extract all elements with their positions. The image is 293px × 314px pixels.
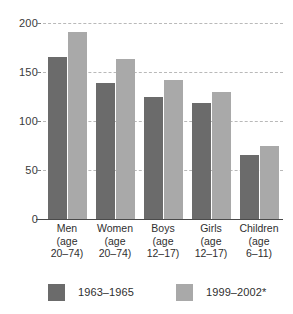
chart-legend: 1963–19651999–2002* [0, 283, 293, 305]
bar-boys-0 [144, 97, 163, 220]
category-label-children: Children (age 6–11) [235, 222, 283, 260]
legend-swatch-icon-0 [48, 284, 65, 301]
bar-women-0 [96, 83, 115, 219]
y-tick-mark [36, 72, 41, 73]
y-tick-200: 200 [0, 18, 38, 29]
category-label-boys: Boys (age 12–17) [139, 222, 187, 260]
y-tick-label: 150 [6, 67, 38, 78]
bar-children-0 [240, 155, 259, 219]
bar-girls-0 [192, 103, 211, 219]
x-axis-category-labels: Men (age 20–74)Women (age 20–74)Boys (ag… [43, 222, 283, 274]
legend-item-0[interactable]: 1963–1965 [48, 283, 134, 301]
x-axis-line [36, 219, 283, 220]
y-tick-150: 150 [0, 67, 38, 78]
bar-chart: 050100150200 Men (age 20–74)Women (age 2… [0, 0, 293, 314]
bar-boys-1 [164, 80, 183, 219]
y-tick-50: 50 [0, 165, 38, 176]
legend-item-1[interactable]: 1999–2002* [176, 283, 266, 301]
y-tick-mark [36, 121, 41, 122]
y-tick-label: 100 [6, 116, 38, 127]
y-tick-100: 100 [0, 116, 38, 127]
y-tick-label: 200 [6, 18, 38, 29]
y-tick-0: 0 [0, 214, 38, 225]
y-tick-mark [36, 23, 41, 24]
legend-label: 1999–2002* [206, 287, 266, 298]
bar-men-1 [68, 32, 87, 219]
legend-label: 1963–1965 [78, 287, 134, 298]
y-tick-mark [36, 170, 41, 171]
bar-children-1 [260, 146, 279, 219]
bar-women-1 [116, 59, 135, 219]
y-tick-label: 50 [6, 165, 38, 176]
plot-area [43, 23, 283, 219]
category-label-men: Men (age 20–74) [43, 222, 91, 260]
category-label-girls: Girls (age 12–17) [187, 222, 235, 260]
y-tick-label: 0 [6, 214, 38, 225]
bar-girls-1 [212, 92, 231, 219]
category-label-women: Women (age 20–74) [91, 222, 139, 260]
bar-men-0 [48, 57, 67, 219]
legend-swatch-icon-1 [176, 284, 193, 301]
